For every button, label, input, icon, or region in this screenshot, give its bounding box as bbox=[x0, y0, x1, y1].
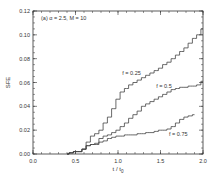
chart-svg: 0.00.51.01.52.00.000.020.040.060.080.100… bbox=[0, 0, 216, 179]
y-tick-label: 0.00 bbox=[19, 151, 30, 157]
series-label: f = 0.25 bbox=[122, 70, 141, 76]
x-tick-label: 0.0 bbox=[29, 158, 37, 164]
y-axis-label: SFE bbox=[5, 77, 11, 89]
series-label: f = 0.75 bbox=[169, 131, 188, 137]
series-annotations: f = 0.25f = 0.5f = 0.75 bbox=[122, 70, 187, 137]
x-tick-label: 1.5 bbox=[157, 158, 165, 164]
y-tick-label: 0.06 bbox=[19, 80, 30, 86]
panel-label: (a) α = 2.5, M = 10 bbox=[41, 15, 86, 21]
y-tick-label: 0.08 bbox=[19, 56, 30, 62]
y-tick-label: 0.02 bbox=[19, 127, 30, 133]
x-tick-label: 2.0 bbox=[199, 158, 207, 164]
x-tick-label: 0.5 bbox=[72, 158, 80, 164]
tick-labels: 0.00.51.01.52.00.000.020.040.060.080.100… bbox=[19, 8, 207, 164]
sfe-chart: 0.00.51.01.52.00.000.020.040.060.080.100… bbox=[0, 0, 216, 179]
x-axis-label-sub: 0 bbox=[121, 169, 124, 174]
y-tick-label: 0.04 bbox=[19, 103, 30, 109]
x-tick-label: 1.0 bbox=[114, 158, 122, 164]
y-tick-label: 0.12 bbox=[19, 8, 30, 14]
y-tick-label: 0.10 bbox=[19, 32, 30, 38]
x-axis-label: t / t0 bbox=[113, 166, 124, 174]
series-line-1 bbox=[67, 81, 203, 154]
series-label: f = 0.5 bbox=[156, 83, 171, 89]
